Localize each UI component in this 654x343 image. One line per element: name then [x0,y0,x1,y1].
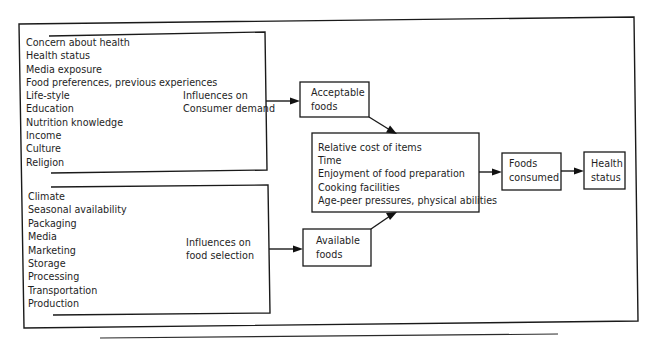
consumer-demand-label-line2: Consumer demand [183,102,275,115]
mediating-factor-item: Cooking facilities [318,181,497,194]
mediating-factors-list: Relative cost of items Time Enjoyment of… [318,141,497,207]
health-status-line2: status [591,171,621,184]
consumer-demand-label-line1: Influences on [183,89,248,102]
factor-item: Culture [26,142,217,155]
arrowhead-icon [386,212,397,220]
arrow-acceptable-to-mediating [369,117,390,130]
food-selection-factor-list: Climate Seasonal availability Packaging … [28,190,127,311]
factor-item: Media [28,230,127,243]
health-status-line1: Health [591,157,623,170]
factor-item: Income [26,129,217,142]
acceptable-foods-line1: Acceptable [311,86,365,99]
acceptable-foods-line2: foods [311,100,337,113]
bottom-rule [100,334,558,338]
factor-item: Packaging [28,217,127,230]
factor-item: Media exposure [26,63,217,76]
factor-item: Food preferences, previous experiences [26,76,217,89]
factor-item: Nutrition knowledge [26,116,217,129]
food-selection-label-line2: food selection [186,249,254,262]
factor-item: Transportation [28,284,127,297]
available-foods-line1: Available [316,234,360,247]
arrowhead-icon [290,98,300,105]
foods-consumed-line2: consumed [509,171,559,184]
factor-item: Climate [28,190,127,203]
factor-item: Health status [26,49,217,62]
mediating-factor-item: Enjoyment of food preparation [318,167,497,180]
factor-item: Marketing [28,244,127,257]
available-foods-line2: foods [316,248,342,261]
factor-item: Religion [26,156,217,169]
factor-item: Seasonal availability [28,203,127,216]
mediating-factor-item: Relative cost of items [318,141,497,154]
foods-consumed-line1: Foods [509,157,537,170]
arrowhead-icon [293,246,303,253]
factor-item: Storage [28,257,127,270]
mediating-factor-item: Age-peer pressures, physical abilities [318,194,497,207]
mediating-factor-item: Time [318,154,497,167]
arrow-available-to-mediating [371,216,390,229]
food-selection-label-line1: Influences on [186,236,251,249]
arrowhead-icon [574,168,584,175]
factor-item: Production [28,297,127,310]
factor-item: Concern about health [26,36,217,49]
factor-item: Processing [28,270,127,283]
